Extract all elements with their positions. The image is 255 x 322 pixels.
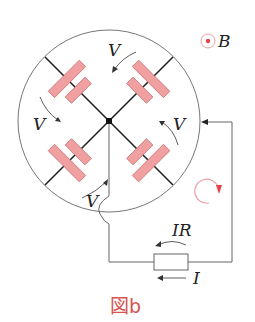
figure-caption: 図b <box>110 295 141 317</box>
hub <box>106 118 112 124</box>
resistor <box>154 254 188 270</box>
label-v-top: V <box>108 40 122 60</box>
label-v-right: V <box>173 114 187 134</box>
label-ir: IR <box>171 220 192 240</box>
label-v-bottom: V <box>86 191 100 211</box>
field-dot-icon <box>206 39 210 43</box>
label-current-i: I <box>192 268 200 288</box>
current-arrowhead-icon <box>157 275 163 281</box>
wire-arrowhead-icon <box>201 119 208 125</box>
label-field-b: B <box>217 31 231 51</box>
ir-arrow <box>158 242 186 246</box>
circulation-arrow <box>195 179 218 203</box>
diagram-canvas: V V V V B IR I 図b <box>0 0 255 322</box>
circulation-arrowhead-icon <box>216 185 222 194</box>
ir-arrowhead-icon <box>155 241 161 247</box>
label-v-left: V <box>33 114 47 134</box>
